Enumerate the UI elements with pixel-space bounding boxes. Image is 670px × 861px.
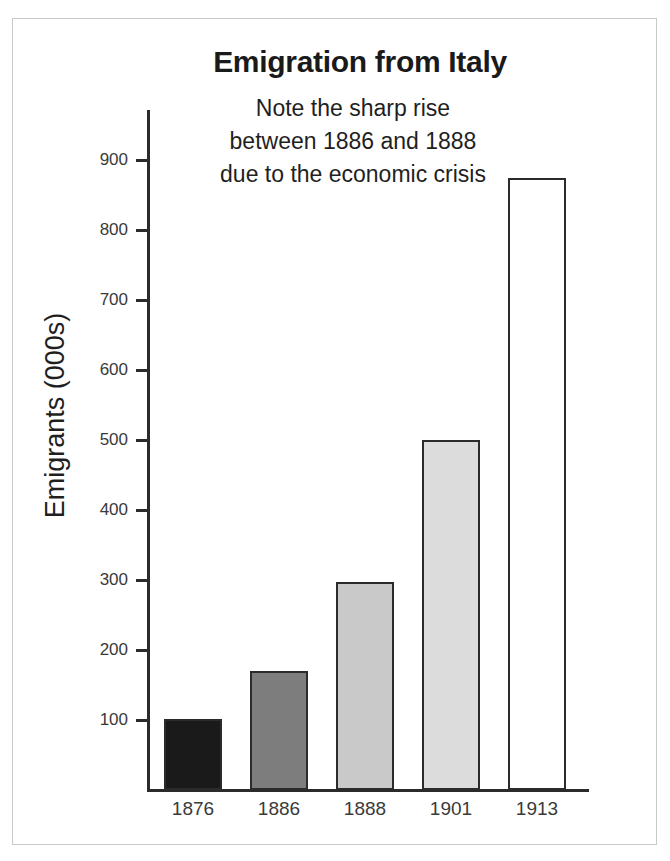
y-tick-label: 700 <box>68 290 128 310</box>
chart-page: Emigration from Italy Note the sharp ris… <box>0 0 670 861</box>
bar-1901 <box>422 440 480 790</box>
y-tick-label-wrap: 600 <box>66 370 128 371</box>
y-tick-label: 800 <box>68 220 128 240</box>
annotation-line-3: due to the economic crisis <box>168 158 538 191</box>
y-tick-mark <box>136 719 148 722</box>
y-tick-label-wrap: 900 <box>66 160 128 161</box>
x-tick-label-1886: 1886 <box>234 798 324 820</box>
y-tick-mark <box>136 439 148 442</box>
bar-chart: Emigration from Italy Note the sharp ris… <box>0 0 670 861</box>
y-tick-label: 600 <box>68 360 128 380</box>
bar-1913 <box>508 178 566 791</box>
y-tick-label: 100 <box>68 710 128 730</box>
y-tick-label-wrap: 500 <box>66 440 128 441</box>
bar-1888 <box>336 582 394 790</box>
chart-annotation: Note the sharp rise between 1886 and 188… <box>168 92 538 191</box>
chart-title: Emigration from Italy <box>150 45 570 79</box>
y-tick-mark <box>136 369 148 372</box>
y-tick-label: 400 <box>68 500 128 520</box>
x-tick-label-1901: 1901 <box>406 798 496 820</box>
y-tick-mark <box>136 159 148 162</box>
y-tick-mark <box>136 509 148 512</box>
bar-1886 <box>250 671 308 790</box>
x-tick-label-1913: 1913 <box>492 798 582 820</box>
y-tick-label-wrap: 300 <box>66 580 128 581</box>
y-axis-line <box>147 110 150 792</box>
annotation-line-2: between 1886 and 1888 <box>168 125 538 158</box>
annotation-line-1: Note the sharp rise <box>168 92 538 125</box>
y-tick-label: 500 <box>68 430 128 450</box>
y-tick-label: 200 <box>68 640 128 660</box>
x-tick-label-1876: 1876 <box>148 798 238 820</box>
y-tick-label-wrap: 100 <box>66 720 128 721</box>
bar-1876 <box>164 719 222 790</box>
y-tick-mark <box>136 579 148 582</box>
y-tick-label: 900 <box>68 150 128 170</box>
y-tick-label-wrap: 800 <box>66 230 128 231</box>
y-tick-label-wrap: 700 <box>66 300 128 301</box>
x-tick-label-1888: 1888 <box>320 798 410 820</box>
y-axis-title: Emigrants (000s) <box>40 226 71 606</box>
y-tick-mark <box>136 649 148 652</box>
y-tick-mark <box>136 229 148 232</box>
y-tick-label-wrap: 200 <box>66 650 128 651</box>
y-tick-label: 300 <box>68 570 128 590</box>
y-tick-label-wrap: 400 <box>66 510 128 511</box>
y-tick-mark <box>136 299 148 302</box>
